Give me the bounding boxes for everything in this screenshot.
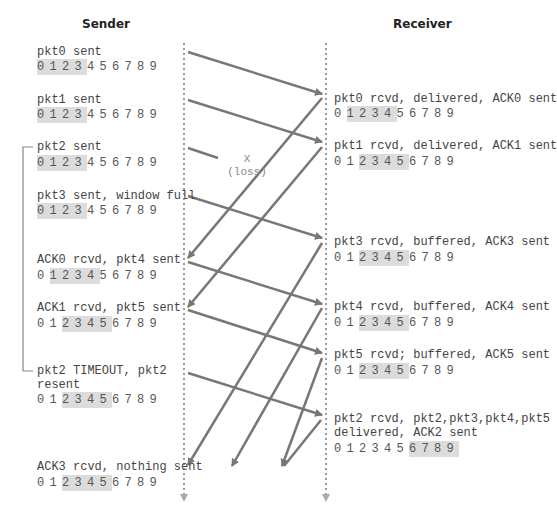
sender-event-label: pkt3 sent, window full xyxy=(37,189,195,203)
receiver-window: 0123456789 xyxy=(334,106,459,122)
sequence-number: 8 xyxy=(137,392,150,408)
sequence-number: 4 xyxy=(384,154,397,170)
sender-window: 0123456789 xyxy=(37,203,162,219)
sender-window: 0123456789 xyxy=(37,392,162,408)
sequence-number: 4 xyxy=(384,250,397,266)
sequence-number: 6 xyxy=(112,59,125,75)
sequence-number: 0 xyxy=(334,250,347,266)
sequence-number: 4 xyxy=(87,155,100,171)
sequence-number: 0 xyxy=(37,316,50,332)
sender-event-label: ACK0 rcvd, pkt4 sent xyxy=(37,253,181,267)
sequence-number: 3 xyxy=(75,475,88,491)
sequence-number: 7 xyxy=(125,392,138,408)
sequence-number: 0 xyxy=(37,268,50,284)
sequence-number: 1 xyxy=(50,107,63,123)
sequence-number: 5 xyxy=(100,392,113,408)
sequence-number: 5 xyxy=(100,59,113,75)
sender-window: 0123456789 xyxy=(37,107,162,123)
sequence-number: 4 xyxy=(87,268,100,284)
sequence-number: 1 xyxy=(50,155,63,171)
sequence-number: 7 xyxy=(125,155,138,171)
sequence-number: 5 xyxy=(100,107,113,123)
sequence-number: 0 xyxy=(37,59,50,75)
sequence-number: 9 xyxy=(447,441,460,457)
sequence-number: 0 xyxy=(37,107,50,123)
sequence-number: 6 xyxy=(112,107,125,123)
sequence-number: 8 xyxy=(434,363,447,379)
sequence-number: 1 xyxy=(347,106,360,122)
sequence-number: 0 xyxy=(37,475,50,491)
sequence-number: 1 xyxy=(50,392,63,408)
receiver-event-label: pkt0 rcvd, delivered, ACK0 sent xyxy=(334,92,557,106)
sequence-number: 8 xyxy=(434,106,447,122)
sequence-number: 8 xyxy=(137,107,150,123)
sequence-number: 8 xyxy=(137,268,150,284)
sequence-number: 4 xyxy=(87,475,100,491)
sequence-number: 3 xyxy=(75,59,88,75)
receiver-window: 0123456789 xyxy=(334,363,459,379)
sequence-number: 9 xyxy=(150,155,163,171)
sequence-number: 4 xyxy=(87,59,100,75)
sequence-number: 1 xyxy=(347,250,360,266)
sequence-number: 0 xyxy=(37,203,50,219)
sequence-number: 8 xyxy=(137,316,150,332)
sequence-number: 0 xyxy=(37,155,50,171)
sequence-number: 6 xyxy=(112,203,125,219)
sender-event-label: pkt0 sent xyxy=(37,45,102,59)
sequence-number: 5 xyxy=(100,268,113,284)
sequence-number: 0 xyxy=(334,441,347,457)
sequence-number: 4 xyxy=(87,203,100,219)
sequence-number: 2 xyxy=(359,250,372,266)
loss-label: (loss) xyxy=(217,166,277,179)
sequence-number: 7 xyxy=(422,441,435,457)
sequence-number: 8 xyxy=(434,315,447,331)
sequence-number: 6 xyxy=(409,154,422,170)
sender-window: 0123456789 xyxy=(37,475,162,491)
sequence-number: 4 xyxy=(384,315,397,331)
sequence-number: 0 xyxy=(37,392,50,408)
sequence-number: 9 xyxy=(447,315,460,331)
sequence-number: 2 xyxy=(359,154,372,170)
sequence-number: 8 xyxy=(434,441,447,457)
sequence-number: 7 xyxy=(125,316,138,332)
sequence-number: 0 xyxy=(334,154,347,170)
sequence-number: 6 xyxy=(112,475,125,491)
sender-window: 0123456789 xyxy=(37,268,162,284)
sequence-number: 7 xyxy=(422,154,435,170)
sequence-number: 8 xyxy=(137,59,150,75)
sequence-number: 3 xyxy=(372,363,385,379)
sequence-number: 9 xyxy=(150,268,163,284)
sequence-number: 4 xyxy=(384,441,397,457)
timeout-bracket xyxy=(23,147,33,371)
sender-event-label: ACK1 rcvd, pkt5 sent xyxy=(37,301,181,315)
sequence-number: 6 xyxy=(112,392,125,408)
sender-window: 0123456789 xyxy=(37,316,162,332)
sequence-number: 3 xyxy=(75,155,88,171)
sequence-number: 7 xyxy=(125,203,138,219)
sequence-number: 7 xyxy=(422,363,435,379)
sender-event-label: pkt2 TIMEOUT, pkt2 resent xyxy=(37,364,167,392)
sequence-number: 5 xyxy=(397,441,410,457)
sequence-number: 2 xyxy=(62,268,75,284)
sequence-number: 9 xyxy=(447,250,460,266)
sequence-number: 4 xyxy=(87,392,100,408)
sequence-number: 3 xyxy=(372,250,385,266)
sequence-number: 3 xyxy=(372,106,385,122)
sequence-number: 1 xyxy=(347,363,360,379)
sequence-number: 5 xyxy=(100,316,113,332)
sequence-number: 2 xyxy=(62,59,75,75)
sequence-number: 3 xyxy=(75,203,88,219)
sequence-number: 2 xyxy=(359,106,372,122)
sequence-number: 3 xyxy=(75,316,88,332)
sequence-number: 6 xyxy=(112,155,125,171)
sequence-number: 1 xyxy=(347,441,360,457)
receiver-event-label: pkt3 rcvd, buffered, ACK3 sent xyxy=(334,235,550,249)
sequence-number: 9 xyxy=(150,203,163,219)
sequence-number: 0 xyxy=(334,106,347,122)
sequence-number: 9 xyxy=(150,107,163,123)
sequence-number: 7 xyxy=(422,106,435,122)
sequence-number: 5 xyxy=(397,154,410,170)
sequence-number: 2 xyxy=(62,392,75,408)
sequence-number: 6 xyxy=(112,316,125,332)
sequence-number: 1 xyxy=(347,154,360,170)
